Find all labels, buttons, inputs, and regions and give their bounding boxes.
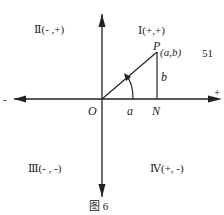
figure-caption: 图 6 (89, 200, 109, 212)
y-axis-up-arrow-icon (99, 14, 106, 27)
quadrant-2-label: Ⅱ(- ,+) (34, 23, 65, 36)
positive-x-label: + (214, 86, 220, 98)
quadrant-1-label: Ⅰ(+,+) (138, 24, 165, 37)
quadrant-3-label: Ⅲ(- , -) (28, 162, 62, 175)
origin-label: O (88, 104, 97, 118)
negative-x-label: - (3, 93, 7, 105)
quadrant-4-label: Ⅳ(+, -) (150, 162, 184, 175)
x-axis-left-arrow-icon (14, 96, 26, 103)
foot-n-label: N (151, 104, 161, 118)
y-axis-down-arrow-icon (99, 184, 106, 197)
angle-arc (127, 77, 133, 99)
segment-a-label: a (127, 104, 133, 118)
segment-b-label: b (161, 70, 167, 84)
coordinate-diagram: Ⅱ(- ,+) Ⅰ(+,+) Ⅲ(- , -) Ⅳ(+, -) P (a,b) … (0, 0, 224, 215)
page-number: 51 (202, 47, 213, 59)
point-p-coords: (a,b) (160, 46, 181, 59)
radius-line-op (102, 52, 157, 99)
